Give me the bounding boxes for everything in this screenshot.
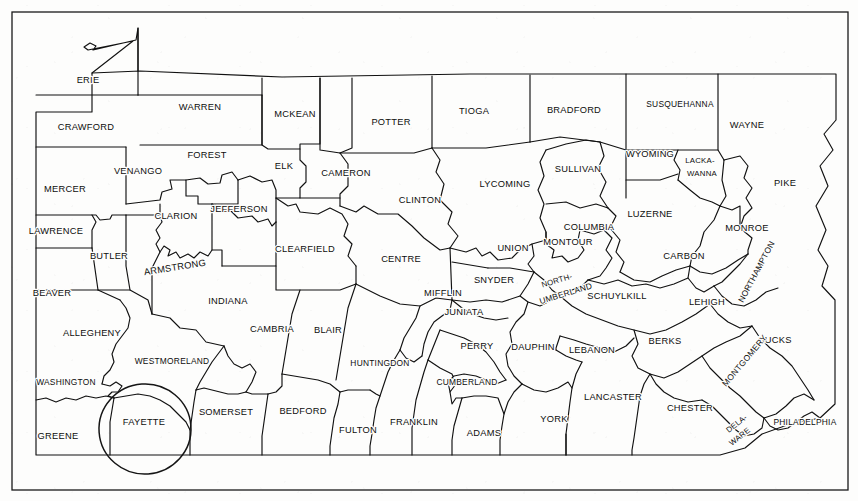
- county-label-jefferson: JEFFERSON: [210, 204, 268, 214]
- county-label-clearfield: CLEARFIELD: [275, 244, 335, 254]
- county-label-lycoming: LYCOMING: [480, 179, 531, 189]
- county-label-washington: WASHINGTON: [36, 377, 96, 387]
- pennsylvania-county-map[interactable]: ERIECRAWFORDWARRENMCKEANPOTTERTIOGABRADF…: [0, 0, 858, 501]
- county-label-butler: BUTLER: [90, 251, 128, 261]
- county-label-monroe: MONROE: [725, 223, 768, 233]
- county-label-philadelphia: PHILADELPHIA: [773, 417, 836, 427]
- county-label-lancaster: LANCASTER: [584, 392, 642, 402]
- county-label-crawford: CRAWFORD: [58, 122, 114, 132]
- county-label-york: YORK: [540, 414, 568, 424]
- county-label-forest: FOREST: [187, 150, 226, 160]
- county-label-montour: MONTOUR: [543, 237, 593, 247]
- county-label-blair: BLAIR: [314, 325, 342, 335]
- county-label-erie: ERIE: [77, 75, 100, 85]
- county-label-berks: BERKS: [649, 336, 682, 346]
- county-label-westmoreland: WESTMORELAND: [135, 356, 210, 366]
- county-label-clinton: CLINTON: [399, 195, 441, 205]
- county-label-bedford: BEDFORD: [279, 406, 326, 416]
- county-label-cumberland: CUMBERLAND: [436, 377, 497, 387]
- county-label-cameron: CAMERON: [321, 168, 370, 178]
- county-label-chester: CHESTER: [667, 403, 713, 413]
- county-label-venango: VENANGO: [114, 166, 162, 176]
- county-label-susquehanna: SUSQUEHANNA: [646, 99, 714, 109]
- county-label-lebanon: LEBANON: [569, 345, 615, 355]
- county-label-warren: WARREN: [179, 102, 221, 112]
- county-label-somerset: SOMERSET: [199, 407, 253, 417]
- county-label-adams: ADAMS: [467, 428, 501, 438]
- county-label-franklin: FRANKLIN: [390, 417, 438, 427]
- county-label-elk: ELK: [275, 161, 294, 171]
- erie-lake-shore: [84, 28, 138, 73]
- potter-west: [320, 78, 352, 153]
- county-label-beaver: BEAVER: [33, 288, 72, 298]
- county-label-huntingdon: HUNTINGDON: [350, 358, 409, 368]
- county-label-greene: GREENE: [38, 431, 79, 441]
- county-label-wayne: WAYNE: [730, 120, 764, 130]
- county-label-potter: POTTER: [371, 117, 410, 127]
- county-label-cambria: CAMBRIA: [250, 324, 295, 334]
- county-label-fayette: FAYETTE: [123, 417, 165, 427]
- county-label-juniata: JUNIATA: [444, 307, 484, 317]
- county-label-wanna: WANNA: [687, 169, 718, 178]
- map-page: ERIECRAWFORDWARRENMCKEANPOTTERTIOGABRADF…: [0, 0, 858, 501]
- county-label-clarion: CLARION: [154, 211, 197, 221]
- county-label-tioga: TIOGA: [459, 106, 490, 116]
- county-label-wyoming: WYOMING: [626, 149, 674, 159]
- county-label-centre: CENTRE: [381, 254, 421, 264]
- county-label-carbon: CARBON: [663, 251, 704, 261]
- county-label-allegheny: ALLEGHENY: [63, 328, 121, 338]
- county-label-sullivan: SULLIVAN: [555, 164, 601, 174]
- county-label-mckean: MCKEAN: [274, 109, 315, 119]
- county-label-mercer: MERCER: [44, 184, 86, 194]
- county-label-snyder: SNYDER: [474, 275, 514, 285]
- county-label-lehigh: LEHIGH: [689, 297, 725, 307]
- county-label-mifflin: MIFFLIN: [424, 288, 462, 298]
- county-label-fulton: FULTON: [339, 425, 377, 435]
- county-label-columbia: COLUMBIA: [564, 222, 615, 232]
- county-label-pike: PIKE: [774, 178, 796, 188]
- county-label-union: UNION: [497, 243, 528, 253]
- county-boundaries: [36, 28, 836, 455]
- county-label-schuylkill: SCHUYLKILL: [587, 291, 646, 301]
- county-label-indiana: INDIANA: [208, 296, 248, 306]
- county-label-lawrence: LAWRENCE: [29, 226, 83, 236]
- county-label-dauphin: DAUPHIN: [511, 342, 555, 352]
- county-label-bradford: BRADFORD: [547, 105, 601, 115]
- county-label-luzerne: LUZERNE: [627, 209, 672, 219]
- county-label-lacka: LACKA-: [685, 156, 715, 165]
- county-label-perry: PERRY: [460, 341, 493, 351]
